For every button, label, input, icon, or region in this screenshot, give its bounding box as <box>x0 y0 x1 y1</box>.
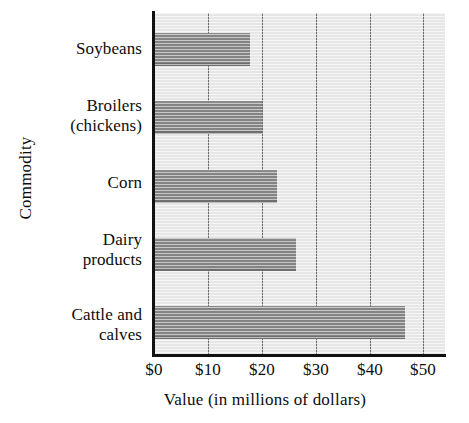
x-axis-line <box>152 354 446 357</box>
y-tick-label-line: Corn <box>20 173 142 193</box>
y-tick-label-soybeans: Soybeans <box>20 39 142 59</box>
x-tick-label: $20 <box>232 360 292 380</box>
y-tick-label-line: Soybeans <box>20 39 142 59</box>
gridline-usd-40 <box>370 13 371 355</box>
y-tick-label-broilers: Broilers (chickens) <box>20 96 142 136</box>
y-tick-label-cattle-and-calves: Cattle and calves <box>20 305 142 345</box>
y-tick-label-line: Dairy <box>20 230 142 250</box>
y-tick-label-group: Soybeans Broilers (chickens) Corn Dairy … <box>20 13 148 355</box>
x-axis-title: Value (in millions of dollars) <box>100 390 430 410</box>
bar-cattle-and-calves <box>154 306 405 339</box>
x-tick-label-group: $0$10$20$30$40$50 <box>154 360 445 386</box>
x-tick-label: $50 <box>393 360 453 380</box>
y-tick-label-line: (chickens) <box>20 116 142 136</box>
y-tick-label-line: Broilers <box>20 96 142 116</box>
x-tick-label: $10 <box>178 360 238 380</box>
bar-soybeans <box>154 33 250 66</box>
x-tick-label: $0 <box>124 360 184 380</box>
gridline-usd-30 <box>316 13 317 355</box>
gridline-usd-50 <box>423 13 424 355</box>
y-tick-label-line: calves <box>20 325 142 345</box>
y-tick-label-dairy-products: Dairy products <box>20 230 142 270</box>
plot-area <box>154 13 445 355</box>
x-tick-label: $30 <box>286 360 346 380</box>
y-tick-label-line: Cattle and <box>20 305 142 325</box>
bar-corn <box>154 170 277 203</box>
y-tick-label-corn: Corn <box>20 173 142 193</box>
y-axis-line <box>152 11 155 357</box>
y-tick-label-line: products <box>20 250 142 270</box>
x-tick-label: $40 <box>340 360 400 380</box>
bar-broilers-chickens <box>154 101 262 134</box>
bar-dairy-products <box>154 238 296 271</box>
bar-chart: Commodity Soybeans Broilers (chickens) C… <box>0 0 469 423</box>
